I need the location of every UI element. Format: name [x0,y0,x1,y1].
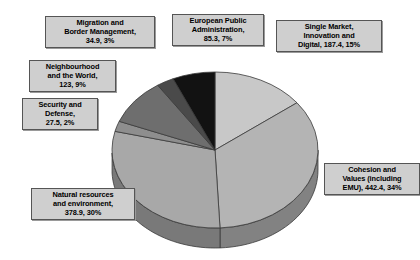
slice-label-single-market-innovation-and-digital: Single Market, Innovation and Digital, 1… [276,20,382,52]
slice-label-european-public-administration: European Public Administration, 85.3, 7% [172,14,264,46]
slice-label-neighbourhood-and-the-world: Neighbourhood and the World, 123, 9% [29,60,116,92]
slice-label-migration-and-border-management: Migration and Border Management, 34.9, 3… [45,16,155,48]
slice-label-natural-resources-and-environment: Natural resources and environment, 378.9… [31,188,135,220]
slice-label-cohesion-and-values: Cohesion and Values (including EMU), 442… [324,163,420,195]
slice-label-security-and-defense: Security and Defense, 27.5, 2% [22,98,98,130]
pie-top-faces [112,72,318,228]
